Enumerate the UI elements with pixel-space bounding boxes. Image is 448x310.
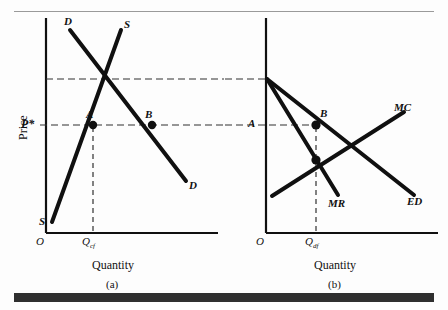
- panel-a-supply-label-top: S: [124, 19, 130, 30]
- panel-b-caption: (b): [328, 278, 341, 290]
- panel-a-demand-label-top: D: [64, 16, 72, 27]
- panel-a-quantity-tick-subscript: cf: [90, 242, 95, 250]
- panel-b-origin-label: O: [256, 236, 264, 247]
- panel-b-point-b-label: B: [320, 108, 327, 119]
- panel-a-demand-label-bottom: D: [189, 180, 197, 191]
- panel-a-x-axis-title: Quantity: [92, 258, 134, 273]
- panel-b-quantity-tick-letter: Q: [305, 235, 313, 247]
- panel-b-x-axis-title: Quantity: [314, 258, 356, 273]
- panel-b-quantity-tick-label: Qdf: [305, 236, 318, 250]
- panel-b: MC MR ED B A O Qdf Quantity (b): [224, 0, 448, 310]
- panel-a-quantity-tick-letter: Q: [82, 235, 90, 247]
- panel-a-origin-label: O: [36, 236, 44, 247]
- panel-b-marginal-revenue-label: MR: [328, 198, 345, 209]
- panel-a-caption: (a): [106, 278, 118, 290]
- panel-a-point-b-label: B: [145, 109, 152, 120]
- panel-b-quantity-tick-subscript: df: [313, 242, 318, 250]
- panel-a-y-axis-title: Price: [16, 115, 31, 140]
- panel-a-supply-curve: [52, 30, 121, 222]
- panel-a: D D S S A B P* O Qcf Price Quantity (a): [0, 0, 224, 310]
- panel-a-demand-curve: [70, 30, 186, 181]
- panel-b-excess-demand-label: ED: [407, 196, 422, 207]
- panel-b-marginal-cost-label: MC: [394, 102, 411, 113]
- panel-b-price-level-label: A: [248, 118, 255, 129]
- panel-a-supply-label-bottom: S: [39, 216, 45, 227]
- panel-a-quantity-tick-label: Qcf: [82, 236, 95, 250]
- panel-a-point-a-label: A: [86, 109, 93, 120]
- panel-b-mc-mr-intersection-marker: [311, 155, 320, 164]
- panel-a-point-b-marker: [148, 121, 156, 129]
- panel-a-point-a-marker: [89, 121, 97, 129]
- economics-figure: D D S S A B P* O Qcf Price Quantity (a): [0, 0, 448, 310]
- panel-b-point-b-marker: [311, 120, 320, 129]
- panel-b-excess-demand-curve: [267, 79, 414, 195]
